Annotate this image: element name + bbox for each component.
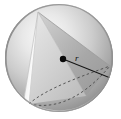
sphere-cone-diagram: r [0, 0, 121, 119]
radius-label: r [75, 53, 79, 63]
figure-container: r [0, 0, 121, 119]
sphere-center-point [60, 56, 66, 62]
